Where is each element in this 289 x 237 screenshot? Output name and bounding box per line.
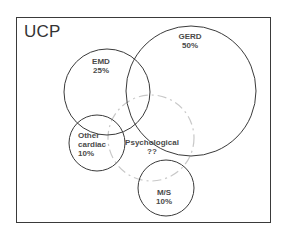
gerd-label: GERD 50% — [178, 32, 201, 50]
other-cardiac-value: 10% — [78, 149, 106, 158]
emd-label: EMD 25% — [92, 57, 110, 75]
other-cardiac-label: Other cardiac 10% — [78, 131, 106, 158]
other-cardiac-name-line2: cardiac — [78, 140, 106, 149]
emd-name: EMD — [92, 57, 110, 66]
psychological-label: Psychological ?? — [125, 138, 179, 156]
ms-label: M/S 10% — [156, 188, 172, 206]
ms-name: M/S — [156, 188, 172, 197]
psychological-name: Psychological — [125, 138, 179, 147]
emd-value: 25% — [92, 66, 110, 75]
gerd-value: 50% — [178, 41, 201, 50]
venn-diagram — [0, 0, 289, 237]
psychological-value: ?? — [125, 147, 179, 156]
gerd-name: GERD — [178, 32, 201, 41]
other-cardiac-name-line1: Other — [78, 131, 106, 140]
ms-value: 10% — [156, 197, 172, 206]
